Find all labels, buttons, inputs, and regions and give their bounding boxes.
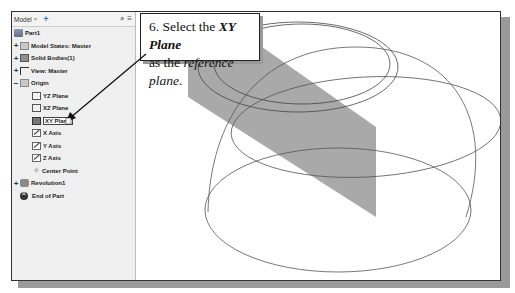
tree-item-label: Solid Bodies(1) (31, 55, 75, 61)
add-tab-icon[interactable]: + (43, 14, 48, 24)
tree-item-label: Y Axis (43, 143, 61, 149)
tree-item-view[interactable]: + View: Master (12, 65, 135, 78)
tree-item-label: Center Point (42, 168, 78, 174)
tree-item-label: XY Plane (43, 117, 73, 125)
tree-item-center-point[interactable]: ✧ Center Point (12, 165, 135, 178)
tree-item-xz-plane[interactable]: XZ Plane (12, 102, 135, 115)
end-of-part-icon (20, 192, 28, 200)
tree-item-label: XZ Plane (43, 105, 68, 111)
part-icon (14, 29, 23, 37)
tree-item-end-of-part[interactable]: End of Part (12, 190, 135, 203)
expand-icon[interactable]: + (12, 66, 20, 75)
revolution-icon (20, 179, 29, 187)
plane-icon (32, 117, 41, 125)
close-icon[interactable]: × (34, 16, 38, 22)
tree-item-solid-bodies[interactable]: + Solid Bodies(1) (12, 52, 135, 65)
callout-line2-prefix: as the (149, 55, 184, 70)
tree-item-xy-plane[interactable]: XY Plane (12, 115, 135, 128)
tree-item-label: View: Master (31, 68, 68, 74)
tree-item-revolution1[interactable]: + Revolution1 (12, 177, 135, 190)
model-browser: Model × + ⌕ ≡ Part1 + Model States: Mast… (12, 12, 136, 280)
folder-icon (20, 42, 29, 50)
view-icon (20, 67, 29, 75)
center-point-icon: ✧ (32, 167, 40, 175)
expand-icon[interactable]: + (12, 41, 20, 50)
tree-item-label: YZ Plane (43, 93, 68, 99)
tree-item-label: End of Part (32, 193, 64, 199)
tree-item-y-axis[interactable]: Y Axis (12, 140, 135, 153)
search-icon[interactable]: ⌕ (120, 14, 124, 24)
plane-icon (32, 104, 41, 112)
model-tree: Part1 + Model States: Master + Solid Bod… (12, 27, 135, 202)
tree-item-model-states[interactable]: + Model States: Master (12, 40, 135, 53)
tab-label: Model (14, 16, 32, 23)
tree-item-z-axis[interactable]: Z Axis (12, 152, 135, 165)
tree-item-label: Z Axis (43, 155, 61, 161)
tree-item-label: X Axis (43, 130, 61, 136)
tree-item-label: Origin (31, 80, 49, 86)
tree-item-x-axis[interactable]: X Axis (12, 127, 135, 140)
tree-item-part1[interactable]: Part1 (12, 27, 135, 40)
plane-icon (32, 92, 41, 100)
tree-item-yz-plane[interactable]: YZ Plane (12, 90, 135, 103)
instruction-callout: 6. Select the XY Plane as the reference … (140, 13, 260, 61)
tree-item-label: Revolution1 (31, 180, 65, 186)
callout-line2-suffix: . (179, 73, 182, 88)
folder-icon (20, 79, 29, 87)
browser-tabs: Model × + ⌕ ≡ (12, 12, 135, 27)
tree-item-origin[interactable]: − Origin (12, 77, 135, 90)
solid-bodies-icon (20, 54, 29, 62)
axis-icon (32, 154, 41, 162)
menu-icon[interactable]: ≡ (127, 14, 132, 24)
tree-item-label: Model States: Master (31, 43, 91, 49)
callout-step: 6. Select the (149, 19, 219, 34)
expand-icon[interactable]: + (12, 54, 20, 63)
tree-item-label: Part1 (25, 30, 40, 36)
axis-icon (32, 142, 41, 150)
expand-icon[interactable]: + (12, 179, 20, 188)
tab-model[interactable]: Model × (14, 16, 41, 23)
axis-icon (32, 129, 41, 137)
collapse-icon[interactable]: − (12, 79, 20, 88)
